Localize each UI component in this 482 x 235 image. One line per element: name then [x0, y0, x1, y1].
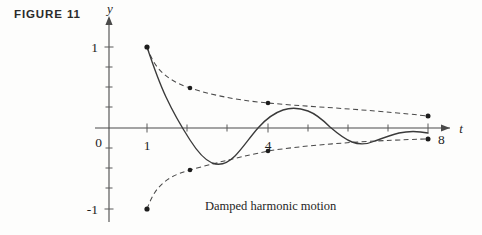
- marker-dot: [426, 137, 431, 142]
- marker-dot: [144, 206, 149, 211]
- x-axis-arrowhead: [441, 124, 450, 131]
- figure-container: FIGURE 11: [0, 0, 482, 235]
- y-axis-arrowhead: [105, 16, 112, 25]
- upper-envelope-curve: [147, 47, 428, 116]
- marker-dot: [144, 44, 149, 49]
- damped-oscillation-curve: [147, 47, 428, 164]
- marker-dot: [188, 86, 193, 91]
- y-tick-label-negative-1: -1: [87, 202, 98, 217]
- x-tick-label-8: 8: [438, 132, 445, 147]
- x-tick-label-4: 4: [265, 138, 272, 153]
- marker-dot: [426, 114, 431, 119]
- figure-caption: Damped harmonic motion: [205, 199, 336, 214]
- marker-dot: [188, 168, 193, 173]
- x-axis-label: t: [459, 121, 463, 136]
- y-tick-label-1: 1: [91, 40, 98, 55]
- origin-label: 0: [95, 135, 102, 150]
- marker-dot: [266, 101, 271, 106]
- y-axis-label: y: [105, 1, 113, 16]
- x-tick-label-1: 1: [144, 138, 151, 153]
